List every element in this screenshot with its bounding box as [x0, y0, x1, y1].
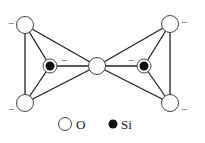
legend-si-icon: [109, 120, 118, 129]
charge-minus: −: [8, 103, 14, 115]
legend-oxygen-label: O: [76, 117, 85, 132]
oxygen-atoms: [17, 16, 179, 112]
charge-minus: −: [8, 17, 14, 29]
si-atom: [46, 62, 55, 71]
legend: O Si: [59, 117, 133, 132]
disilicate-diagram: − − − − − − O Si: [0, 0, 205, 143]
charge-minus: −: [61, 54, 67, 66]
oxygen-atom: [17, 95, 34, 112]
charge-minus: −: [181, 103, 187, 115]
bond-line: [25, 66, 97, 103]
legend-oxygen-icon: [59, 118, 72, 131]
oxygen-atom: [17, 17, 34, 34]
bond-line: [97, 66, 170, 103]
si-atom: [140, 62, 149, 71]
oxygen-atom: [89, 58, 106, 75]
charge-minus: −: [181, 16, 187, 28]
charge-minus: −: [128, 54, 134, 66]
legend-si-label: Si: [121, 117, 132, 132]
oxygen-atom: [162, 95, 179, 112]
oxygen-atom: [162, 16, 179, 33]
